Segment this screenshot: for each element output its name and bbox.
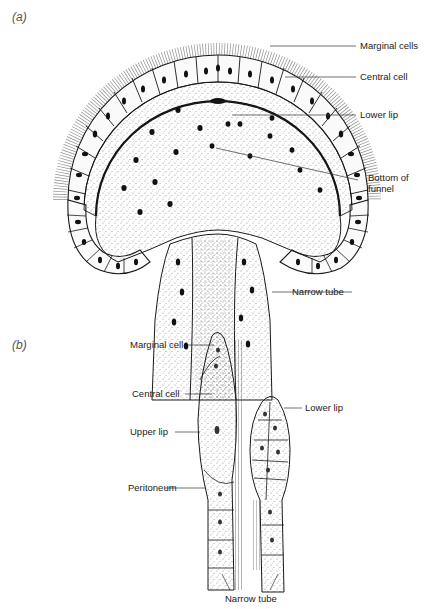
funnel-illustration (0, 0, 430, 609)
upper-lip-column (198, 332, 237, 590)
label-central-cell-a: Central cell (360, 71, 408, 82)
label-bottom-of-funnel-1: Bottom of (368, 172, 409, 183)
label-peritoneum: Peritoneum (128, 482, 177, 493)
label-lower-lip-b: Lower lip (305, 402, 343, 413)
label-central-cell-b: Central cell (132, 388, 180, 399)
label-lower-lip-a: Lower lip (360, 109, 398, 120)
panel-b-label: (b) (12, 338, 27, 352)
label-upper-lip: Upper lip (130, 426, 168, 437)
label-narrow-tube-b: Narrow tube (225, 593, 277, 604)
label-marginal-cells: Marginal cells (360, 40, 418, 51)
label-marginal-cell-b: Marginal cell (130, 339, 183, 350)
label-bottom-of-funnel-2: funnel (368, 183, 394, 194)
label-narrow-tube-a: Narrow tube (292, 286, 344, 297)
